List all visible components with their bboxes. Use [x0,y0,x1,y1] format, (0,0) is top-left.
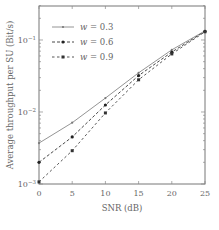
x-axis-label: SNR (dB) [102,203,143,213]
throughput-vs-snr-chart: 10−310−210−1 0510152025 w = 0.3w = 0.6w … [0,0,219,230]
x-tick-label: 20 [167,189,177,198]
x-tick-label: 0 [36,189,41,198]
legend-entry: w = 0.3 [52,22,113,32]
y-tick-label: 10−3 [18,179,37,189]
series-lines [37,30,206,184]
x-tick-label: 10 [100,189,110,198]
x-tick-label: 5 [70,189,75,198]
y-axis-label: Average throughput per SU (Bit/s) [5,21,15,171]
legend-label: w = 0.9 [80,52,113,62]
series-w0-6 [37,30,206,164]
legend-label: w = 0.3 [80,22,113,32]
x-tick-label: 15 [134,189,144,198]
x-tick-label: 25 [200,189,210,198]
series-w0-9 [38,30,207,183]
legend-entry: w = 0.6 [52,37,113,47]
y-axis-ticks: 10−310−210−1 [18,6,205,189]
x-axis-ticks: 0510152025 [36,6,210,198]
series-w0-3 [38,30,206,144]
y-tick-label: 10−2 [18,107,36,117]
legend-entry: w = 0.9 [52,52,113,62]
legend-label: w = 0.6 [80,37,113,47]
legend: w = 0.3w = 0.6w = 0.9 [52,22,113,62]
plot-frame [39,6,205,184]
y-tick-label: 10−1 [18,35,36,45]
